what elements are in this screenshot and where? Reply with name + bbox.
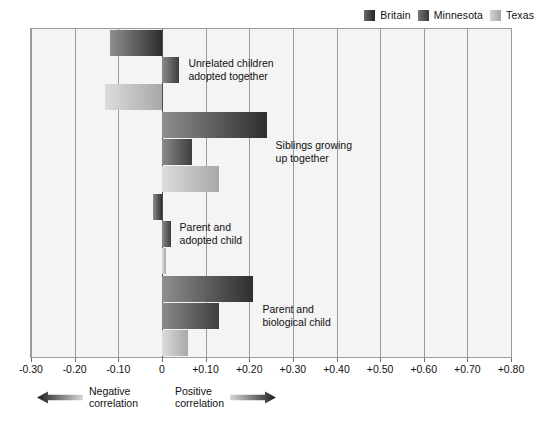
x-tick xyxy=(424,358,425,362)
x-tick-label: +0.30 xyxy=(280,363,307,375)
x-tick xyxy=(249,358,250,362)
x-tick-label: +0.50 xyxy=(367,363,394,375)
bar-minnesota-group-4 xyxy=(162,303,219,329)
legend-label-britain: Britain xyxy=(380,10,410,21)
x-tick xyxy=(467,358,468,362)
bar-texas-group-3 xyxy=(162,248,166,274)
legend-item-texas: Texas xyxy=(490,10,534,21)
bar-texas-group-2 xyxy=(162,166,219,192)
x-tick xyxy=(118,358,119,362)
x-tick-label: +0.40 xyxy=(323,363,350,375)
x-tick xyxy=(31,358,32,362)
gridline xyxy=(511,29,512,357)
negative-line-1: Negative xyxy=(89,385,130,397)
bar-texas-group-4 xyxy=(162,330,188,356)
bar-britain-group-2 xyxy=(162,112,267,138)
bar-texas-group-1 xyxy=(105,84,162,110)
x-tick xyxy=(337,358,338,362)
x-tick-label: +0.80 xyxy=(498,363,525,375)
x-axis: -0.30-0.20-0.100+0.10+0.20+0.30+0.40+0.5… xyxy=(30,358,512,378)
x-tick-label: +0.60 xyxy=(410,363,437,375)
category-label-1-line-1: Unrelated children xyxy=(188,57,273,70)
bar-britain-group-3 xyxy=(153,194,162,220)
x-tick xyxy=(380,358,381,362)
gridline xyxy=(118,29,119,357)
positive-correlation-text: Positive correlation xyxy=(175,385,224,409)
x-tick-label: +0.20 xyxy=(236,363,263,375)
gridline xyxy=(467,29,468,357)
category-label-2: Siblings growingup together xyxy=(276,139,352,165)
gridline xyxy=(75,29,76,357)
category-label-3: Parent andadopted child xyxy=(180,221,242,247)
gridline xyxy=(424,29,425,357)
x-tick-label: 0 xyxy=(159,363,165,375)
x-tick xyxy=(511,358,512,362)
bar-britain-group-1 xyxy=(110,30,162,56)
gridline xyxy=(337,29,338,357)
category-label-1: Unrelated childrenadopted together xyxy=(188,57,273,83)
x-tick-label: -0.10 xyxy=(106,363,130,375)
positive-line-2: correlation xyxy=(175,397,224,409)
bar-britain-group-4 xyxy=(162,276,254,302)
legend-item-britain: Britain xyxy=(364,10,410,21)
x-tick-label: -0.20 xyxy=(63,363,87,375)
x-tick xyxy=(75,358,76,362)
legend-swatch-minnesota xyxy=(418,10,429,21)
category-label-4-line-1: Parent and xyxy=(263,303,331,316)
category-label-4: Parent andbiological child xyxy=(263,303,331,329)
bar-minnesota-group-3 xyxy=(162,221,171,247)
x-tick xyxy=(206,358,207,362)
category-label-1-line-2: adopted together xyxy=(188,70,273,83)
chart-plot-area: Unrelated childrenadopted togetherSiblin… xyxy=(30,28,512,358)
category-label-2-line-1: Siblings growing xyxy=(276,139,352,152)
positive-correlation-annotation: Positive correlation xyxy=(175,385,276,409)
x-tick-label: -0.30 xyxy=(19,363,43,375)
legend-label-texas: Texas xyxy=(506,10,534,21)
positive-line-1: Positive xyxy=(175,385,212,397)
left-arrow-icon xyxy=(37,391,83,404)
right-arrow-icon xyxy=(230,391,276,404)
x-tick-label: +0.10 xyxy=(192,363,219,375)
category-label-3-line-1: Parent and xyxy=(180,221,242,234)
legend-swatch-britain xyxy=(364,10,375,21)
bar-minnesota-group-1 xyxy=(162,57,180,83)
x-tick-label: +0.70 xyxy=(454,363,481,375)
bar-minnesota-group-2 xyxy=(162,139,193,165)
category-label-4-line-2: biological child xyxy=(263,316,331,329)
chart-legend: Britain Minnesota Texas xyxy=(364,8,534,22)
legend-item-minnesota: Minnesota xyxy=(418,10,483,21)
category-label-2-line-2: up together xyxy=(276,152,352,165)
negative-correlation-text: Negative correlation xyxy=(89,385,138,409)
x-tick xyxy=(293,358,294,362)
negative-line-2: correlation xyxy=(89,397,138,409)
negative-correlation-annotation: Negative correlation xyxy=(37,385,138,409)
gridline xyxy=(31,29,32,357)
legend-label-minnesota: Minnesota xyxy=(434,10,483,21)
gridline xyxy=(380,29,381,357)
legend-swatch-texas xyxy=(490,10,501,21)
category-label-3-line-2: adopted child xyxy=(180,234,242,247)
x-tick xyxy=(162,358,163,362)
